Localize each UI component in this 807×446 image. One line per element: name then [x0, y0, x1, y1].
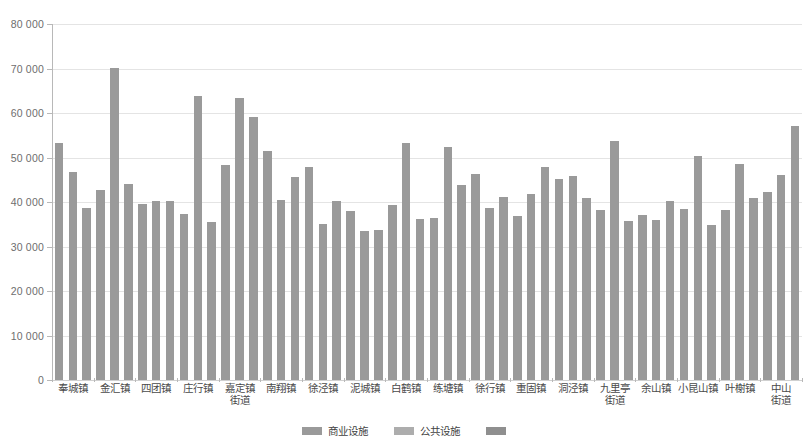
bar [235, 98, 244, 380]
x-axis-tick-label: 余山镇 [641, 382, 671, 394]
bar [263, 151, 272, 380]
bar [69, 172, 78, 380]
x-axis-tick-label-line: 奉城镇 [58, 382, 88, 394]
x-axis-tick-mark [302, 378, 303, 382]
y-axis-tick-label: 30 000 [0, 242, 44, 252]
x-axis-tick-label-line: 金汇镇 [100, 382, 130, 394]
x-axis-tick-label: 徐泾镇 [308, 382, 338, 394]
bar [444, 147, 453, 380]
x-axis-tick-label: 四团镇 [141, 382, 171, 394]
bar [319, 224, 328, 380]
x-axis-tick-label-line: 余山镇 [641, 382, 671, 394]
x-axis-tick-label-line: 徐行镇 [475, 382, 505, 394]
x-axis-tick-label: 徐行镇 [475, 382, 505, 394]
bar [402, 143, 411, 380]
x-axis-tick-label-line: 白鹤镇 [391, 382, 421, 394]
bar [527, 194, 536, 380]
bar [569, 176, 578, 380]
x-axis-tick-mark [52, 378, 53, 382]
y-axis-tick-label: 0 [0, 375, 44, 385]
x-axis-tick-mark [427, 378, 428, 382]
bar [541, 167, 550, 380]
bar [55, 143, 64, 380]
x-axis-tick-label-line: 南翔镇 [266, 382, 296, 394]
y-axis-tick-label: 70 000 [0, 64, 44, 74]
x-axis-tick-label-line: 练塘镇 [433, 382, 463, 394]
bar [82, 208, 91, 380]
bar [96, 190, 105, 380]
y-axis-tick-label: 10 000 [0, 331, 44, 341]
x-axis-tick-label-line: 九里亭 [600, 382, 630, 394]
bar [180, 214, 189, 380]
bar [221, 165, 230, 380]
bar [138, 204, 147, 380]
bar [499, 197, 508, 380]
bars-layer [52, 24, 802, 380]
bar [124, 184, 133, 380]
legend-swatch [302, 427, 322, 435]
y-axis-tick-label: 50 000 [0, 153, 44, 163]
x-axis-tick-label-line: 街道 [771, 394, 791, 406]
bar [374, 230, 383, 380]
x-axis-tick-label: 洞泾镇 [558, 382, 588, 394]
x-axis-tick-mark [177, 378, 178, 382]
x-axis-tick-mark [677, 378, 678, 382]
x-axis-tick-label: 南翔镇 [266, 382, 296, 394]
legend-item[interactable]: 商业设施 [302, 426, 368, 437]
bar [596, 210, 605, 380]
bar [680, 209, 689, 380]
bar [555, 179, 564, 380]
x-axis-tick-label-line: 街道 [600, 394, 630, 406]
bar [638, 215, 647, 380]
bar [610, 141, 619, 380]
bar [166, 201, 175, 380]
x-axis-tick-label: 九里亭街道 [600, 382, 630, 406]
bar [666, 201, 675, 380]
bar [277, 200, 286, 380]
bar [194, 96, 203, 380]
x-axis-tick-label-line: 庄行镇 [183, 382, 213, 394]
chart-legend: 商业设施公共设施 [0, 423, 807, 439]
x-axis-tick-label: 中山街道 [771, 382, 791, 406]
x-axis-tick-label: 重固镇 [516, 382, 546, 394]
legend-label: 商业设施 [328, 426, 368, 437]
x-axis-tick-mark [719, 378, 720, 382]
bar [652, 220, 661, 380]
bar [305, 167, 314, 380]
legend-item[interactable]: 公共设施 [394, 426, 460, 437]
x-axis-tick-mark [385, 378, 386, 382]
x-axis-tick-label: 嘉定镇街道 [225, 382, 255, 406]
x-axis-tick-label-line: 嘉定镇 [225, 382, 255, 394]
x-axis-tick-mark [760, 378, 761, 382]
bar [777, 175, 786, 380]
x-axis-tick-label: 庄行镇 [183, 382, 213, 394]
x-axis-tick-label-line: 中山 [771, 382, 791, 394]
bar [110, 68, 119, 380]
bar-chart: 80 00070 00060 00050 00040 00030 00020 0… [0, 0, 807, 446]
x-axis-tick-label-line: 泥城镇 [350, 382, 380, 394]
bar [485, 208, 494, 380]
y-axis-tick-label: 80 000 [0, 19, 44, 29]
x-axis-tick-mark [552, 378, 553, 382]
x-axis-tick-mark [94, 378, 95, 382]
x-axis-tick-label: 白鹤镇 [391, 382, 421, 394]
x-axis-labels: 奉城镇金汇镇四团镇庄行镇嘉定镇街道南翔镇徐泾镇泥城镇白鹤镇练塘镇徐行镇重固镇洞泾… [52, 382, 802, 422]
bar [332, 201, 341, 380]
x-axis-tick-label: 奉城镇 [58, 382, 88, 394]
bar [513, 216, 522, 380]
bar [721, 210, 730, 380]
y-axis-labels: 80 00070 00060 00050 00040 00030 00020 0… [0, 0, 44, 446]
bar [249, 117, 258, 380]
legend-item[interactable] [486, 427, 506, 435]
x-axis-tick-mark [802, 378, 803, 382]
y-axis-tick-label: 40 000 [0, 197, 44, 207]
x-axis-tick-label-line: 小昆山镇 [678, 382, 718, 394]
x-axis-tick-label-line: 四团镇 [141, 382, 171, 394]
bar [707, 225, 716, 380]
bar [360, 231, 369, 380]
legend-swatch [486, 427, 506, 435]
bar [582, 198, 591, 380]
x-axis-tick-label: 泥城镇 [350, 382, 380, 394]
y-axis-tick-label: 20 000 [0, 286, 44, 296]
x-axis-tick-mark [135, 378, 136, 382]
